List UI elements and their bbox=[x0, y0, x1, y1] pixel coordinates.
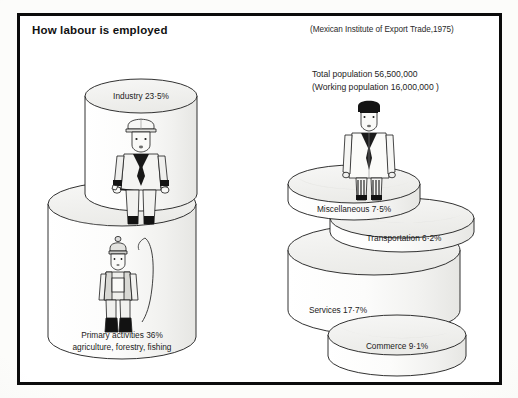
mouth bbox=[367, 125, 371, 128]
primary-sublabel: agriculture, forestry, fishing bbox=[73, 342, 172, 352]
mouth bbox=[116, 264, 119, 266]
boot-right bbox=[119, 318, 132, 332]
transportation-label: Transportation 6·2% bbox=[367, 233, 442, 243]
hat-pom bbox=[115, 236, 121, 241]
hand-right bbox=[389, 172, 396, 178]
cylinder-commerce: Commerce 9·1% bbox=[328, 315, 466, 376]
miscellaneous-label: Miscellaneous 7·5% bbox=[317, 204, 392, 214]
hat-brim bbox=[109, 251, 127, 254]
shoe-right bbox=[371, 195, 382, 200]
boot-left bbox=[105, 318, 118, 332]
shoe-left bbox=[356, 195, 367, 200]
sleeve-right bbox=[386, 135, 395, 174]
cylinder-diagram: Primary activities 36% agriculture, fore… bbox=[0, 0, 518, 398]
eye-right bbox=[121, 258, 123, 260]
hat bbox=[110, 243, 126, 251]
eye-right bbox=[144, 138, 146, 140]
eye-right bbox=[373, 116, 375, 118]
shoe-left bbox=[128, 216, 138, 224]
eye-left bbox=[364, 116, 366, 118]
mouth bbox=[139, 146, 143, 149]
hard-hat-brim bbox=[126, 129, 156, 132]
hand-right bbox=[161, 187, 169, 193]
commerce-label: Commerce 9·1% bbox=[366, 341, 429, 351]
head bbox=[111, 254, 125, 270]
eye-left bbox=[114, 258, 116, 260]
head bbox=[361, 110, 377, 131]
chest-panel bbox=[112, 278, 124, 292]
sleeve-left bbox=[343, 135, 352, 174]
shoe-right bbox=[144, 216, 154, 224]
head bbox=[132, 132, 150, 152]
cuff-right bbox=[160, 180, 169, 186]
services-label: Services 17·7% bbox=[309, 305, 368, 315]
industry-label: Industry 23·5% bbox=[113, 91, 169, 101]
hand-left bbox=[343, 172, 350, 178]
eye-left bbox=[135, 138, 137, 140]
infographic-page: How labour is employed (Mexican Institut… bbox=[0, 0, 518, 398]
hair-fringe bbox=[360, 108, 378, 113]
